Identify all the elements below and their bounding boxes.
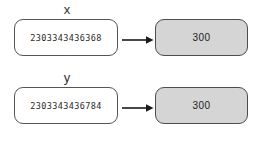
target-value-x: 300 bbox=[192, 32, 210, 43]
variable-label-x: x bbox=[14, 2, 120, 18]
target-box-y: 300 bbox=[155, 87, 248, 124]
mapping-row-x: x 2303343436368 300 bbox=[0, 0, 261, 70]
source-value-x: 2303343436368 bbox=[30, 33, 102, 43]
target-box-x: 300 bbox=[155, 19, 248, 56]
source-box-y: 2303343436784 bbox=[14, 87, 118, 124]
variable-label-y: y bbox=[14, 70, 120, 86]
mapping-row-y: y 2303343436784 300 bbox=[0, 68, 261, 138]
arrow-right-icon bbox=[122, 100, 154, 112]
target-value-y: 300 bbox=[192, 100, 210, 111]
source-box-x: 2303343436368 bbox=[14, 19, 118, 56]
mapping-diagram: x 2303343436368 300 y 2303343436784 300 bbox=[0, 0, 261, 147]
arrow-right-icon bbox=[122, 32, 154, 44]
source-value-y: 2303343436784 bbox=[30, 101, 102, 111]
